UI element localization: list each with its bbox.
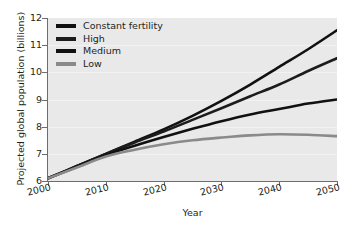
y-axis-tick-label: 12 [28, 13, 42, 23]
series-line-medium [48, 100, 337, 179]
legend-swatch-icon [56, 37, 76, 41]
legend-label: Constant fertility [83, 21, 163, 31]
y-axis-line [47, 18, 48, 181]
population-projection-chart: 1211109876 200020102020203020402050 Proj… [0, 0, 352, 225]
y-axis-tick [42, 100, 47, 101]
x-axis-tick-label: 2020 [142, 182, 168, 198]
y-axis-tick [42, 45, 47, 46]
legend-swatch-icon [56, 62, 76, 66]
y-axis-title: Projected global population (billions) [15, 16, 26, 186]
legend-item[interactable]: High [56, 33, 186, 46]
x-axis-tick-label: 2050 [315, 182, 341, 198]
legend-label: Low [83, 59, 102, 69]
y-axis-tick [42, 127, 47, 128]
legend-item[interactable]: Constant fertility [56, 20, 186, 33]
y-axis-tick-label: 7 [28, 149, 42, 159]
legend-label: High [83, 34, 105, 44]
y-axis-tick-label: 8 [28, 122, 42, 132]
y-axis-tick [42, 154, 47, 155]
y-axis-tick-label: 11 [28, 40, 42, 50]
x-axis-tick-label: 2010 [84, 182, 110, 198]
y-axis-tick [42, 72, 47, 73]
series-line-low [48, 134, 337, 178]
x-axis-line [47, 181, 337, 182]
y-axis-tick-label: 9 [28, 95, 42, 105]
x-axis-title: Year [48, 207, 337, 218]
y-axis-tick [42, 18, 47, 19]
chart-legend: Constant fertilityHighMediumLow [56, 20, 186, 70]
x-axis-tick-label: 2040 [257, 182, 283, 198]
legend-item[interactable]: Low [56, 58, 186, 71]
legend-item[interactable]: Medium [56, 45, 186, 58]
x-axis-tick-label: 2030 [199, 182, 225, 198]
y-axis-tick-label: 10 [28, 67, 42, 77]
legend-swatch-icon [56, 49, 76, 53]
legend-label: Medium [83, 46, 121, 56]
legend-swatch-icon [56, 24, 76, 28]
